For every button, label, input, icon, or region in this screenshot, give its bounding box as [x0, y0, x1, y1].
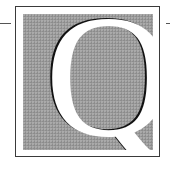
drop-cap-letter: Q [45, 14, 153, 150]
drop-cap-frame: Q Q [15, 6, 160, 157]
decorative-rule-left [0, 23, 11, 24]
drop-cap-panel: Q Q [23, 14, 153, 150]
decorative-rule-right [166, 23, 170, 24]
